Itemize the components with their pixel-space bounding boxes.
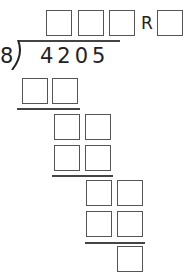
remainder-label: R [141,15,153,32]
remainder-box[interactable] [157,10,183,36]
vinculum-line [18,40,120,42]
quotient-digit-2-box[interactable] [78,10,104,36]
final-remainder-box[interactable] [117,246,143,272]
work-row-2-box-1[interactable] [54,114,80,140]
subtraction-line-2 [52,175,113,177]
work-row-3-box-1[interactable] [54,145,80,171]
work-row-1-box-1[interactable] [22,78,48,104]
divisor: 8 [0,46,13,67]
work-row-4-box-1[interactable] [86,180,112,206]
work-row-2-box-2[interactable] [85,114,111,140]
quotient-digit-1-box[interactable] [46,10,72,36]
work-row-3-box-2[interactable] [85,145,111,171]
subtraction-line-1 [17,108,80,110]
dividend: 4205 [40,46,109,67]
work-row-1-box-2[interactable] [52,78,78,104]
work-row-5-box-2[interactable] [117,211,143,237]
subtraction-line-3 [85,242,145,244]
quotient-digit-3-box[interactable] [109,10,135,36]
work-row-5-box-1[interactable] [86,211,112,237]
work-row-4-box-2[interactable] [117,180,143,206]
